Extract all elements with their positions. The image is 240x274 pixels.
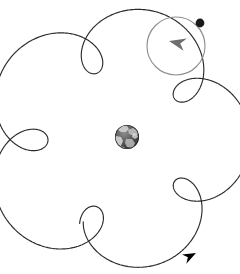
- capture-orbit-circle: [147, 17, 205, 75]
- spacecraft-dot: [196, 19, 205, 28]
- direction-arrow-start: [182, 248, 199, 263]
- orbital-diagram-figure: Spacecraft spiral transfer trajectory ar…: [0, 0, 240, 274]
- trajectory-canvas: [0, 0, 240, 274]
- direction-arrow-capture: [168, 35, 187, 51]
- earth-globe: [114, 125, 139, 152]
